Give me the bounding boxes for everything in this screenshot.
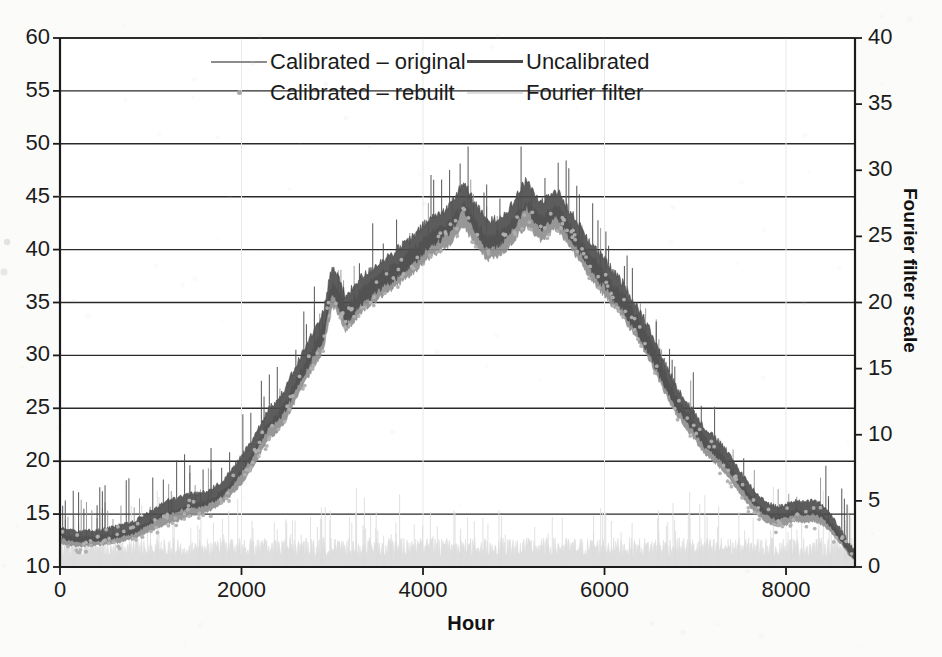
y-axis-tick-label: 60 bbox=[6, 26, 50, 48]
legend-label: Uncalibrated bbox=[526, 51, 650, 73]
y2-axis-tick-label: 15 bbox=[868, 357, 892, 379]
x-axis-tick-label: 2000 bbox=[197, 579, 287, 601]
line-swatch-gray-icon bbox=[208, 55, 270, 69]
line-swatch-light-icon bbox=[464, 86, 526, 100]
y-axis-tick-label: 15 bbox=[6, 502, 50, 524]
x-axis-tick-label: 0 bbox=[15, 579, 105, 601]
x-axis-tick-label: 4000 bbox=[378, 579, 468, 601]
line-swatch-dark-icon bbox=[464, 55, 526, 69]
legend-label: Calibrated – original bbox=[270, 51, 466, 73]
legend-label: Fourier filter bbox=[526, 82, 643, 104]
dot-swatch-gray-icon bbox=[208, 86, 270, 100]
y-axis-tick-label: 40 bbox=[6, 238, 50, 260]
x-axis-tick-label: 8000 bbox=[741, 579, 831, 601]
legend-label: Calibrated – rebuilt bbox=[270, 82, 455, 104]
y-axis-tick-label: 30 bbox=[6, 343, 50, 365]
y2-axis-tick-label: 20 bbox=[868, 291, 892, 313]
y2-axis-tick-label: 25 bbox=[868, 224, 892, 246]
x-axis-title: Hour bbox=[0, 612, 942, 635]
y-axis-tick-label: 10 bbox=[6, 555, 50, 577]
y-axis-tick-label: 25 bbox=[6, 396, 50, 418]
chart-legend: Calibrated – original Uncalibrated Calib… bbox=[208, 46, 678, 108]
y2-axis-tick-label: 35 bbox=[868, 92, 892, 114]
y2-axis-tick-label: 10 bbox=[868, 423, 892, 445]
y-axis-tick-label: 35 bbox=[6, 291, 50, 313]
x-axis-tick-label: 6000 bbox=[560, 579, 650, 601]
y2-axis-tick-label: 5 bbox=[868, 489, 880, 511]
y2-axis-tick-label: 30 bbox=[868, 158, 892, 180]
y-axis-tick-label: 45 bbox=[6, 185, 50, 207]
chart-container: 1015202530354045505560 0510152025303540 … bbox=[0, 0, 942, 657]
y-axis-tick-label: 50 bbox=[6, 132, 50, 154]
legend-item-calibrated-original: Calibrated – original bbox=[208, 46, 464, 77]
legend-item-uncalibrated: Uncalibrated bbox=[464, 46, 678, 77]
y2-axis-tick-label: 40 bbox=[868, 26, 892, 48]
legend-item-calibrated-rebuilt: Calibrated – rebuilt bbox=[208, 77, 464, 108]
legend-item-fourier-filter: Fourier filter bbox=[464, 77, 678, 108]
y2-axis-title: Fourier filter scale bbox=[899, 188, 921, 353]
y-axis-tick-label: 20 bbox=[6, 449, 50, 471]
y-axis-tick-label: 55 bbox=[6, 79, 50, 101]
y2-axis-tick-label: 0 bbox=[868, 555, 880, 577]
